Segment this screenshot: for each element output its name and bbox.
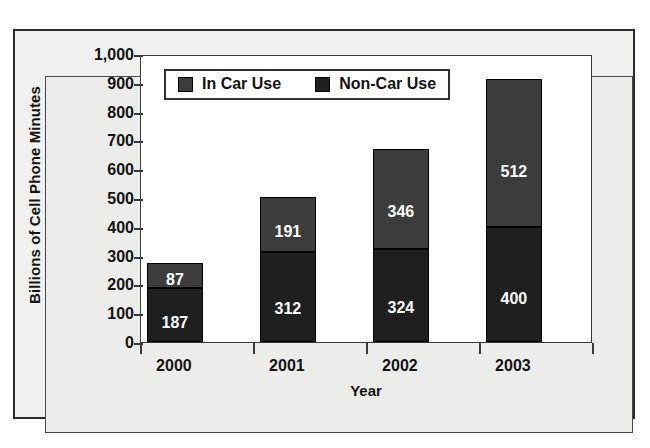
x-axis-category-label: 2001 bbox=[232, 357, 342, 375]
x-axis-tick-mark bbox=[140, 343, 142, 354]
bar-group[interactable]: 312191 bbox=[260, 197, 316, 342]
y-axis-tick-labels: 1,0009008007006005004003002001000 bbox=[70, 45, 134, 345]
bar-group[interactable]: 324346 bbox=[373, 149, 429, 342]
legend-item-non-car-use: Non-Car Use bbox=[315, 76, 436, 92]
y-axis-tick-label: 1,000 bbox=[70, 47, 134, 63]
bar-value-label: 187 bbox=[148, 315, 202, 331]
bar-segment[interactable]: 400 bbox=[486, 227, 542, 342]
bar-segment[interactable]: 87 bbox=[147, 263, 203, 288]
legend-item-in-car-use: In Car Use bbox=[178, 76, 281, 92]
x-axis-tick-mark bbox=[253, 343, 255, 354]
bar-group[interactable]: 400512 bbox=[486, 79, 542, 342]
y-axis-tick-mark bbox=[134, 257, 143, 259]
y-axis-tick-label: 300 bbox=[70, 249, 134, 265]
bar-value-label: 400 bbox=[487, 291, 541, 307]
y-axis-tick-label: 900 bbox=[70, 76, 134, 92]
y-axis-tick-label: 600 bbox=[70, 162, 134, 178]
y-axis-tick-mark bbox=[134, 285, 143, 287]
y-axis-tick-mark bbox=[134, 84, 143, 86]
bar-segment[interactable]: 346 bbox=[373, 149, 429, 249]
bar-segment[interactable]: 312 bbox=[260, 252, 316, 342]
bar-value-label: 324 bbox=[374, 300, 428, 316]
bar-segment[interactable]: 512 bbox=[486, 79, 542, 226]
y-axis-tick-label: 500 bbox=[70, 191, 134, 207]
y-axis-title: Billions of Cell Phone Minutes bbox=[24, 45, 46, 345]
x-axis-tick-mark bbox=[366, 343, 368, 354]
y-axis-tick-label: 100 bbox=[70, 306, 134, 322]
y-axis-tick-label: 0 bbox=[70, 335, 134, 351]
y-axis-tick-label: 800 bbox=[70, 105, 134, 121]
x-axis-category-label: 2000 bbox=[119, 357, 229, 375]
bar-group[interactable]: 18787 bbox=[147, 263, 203, 342]
stacked-bar-chart: Billions of Cell Phone Minutes 1,0009008… bbox=[30, 45, 618, 402]
legend-label-non-car-use: Non-Car Use bbox=[339, 76, 436, 92]
legend-label-in-car-use: In Car Use bbox=[202, 76, 281, 92]
legend-swatch-non-car-use bbox=[315, 77, 330, 92]
y-axis-tick-mark bbox=[134, 199, 143, 201]
y-axis-tick-mark bbox=[134, 55, 143, 57]
bar-segment[interactable]: 187 bbox=[147, 288, 203, 342]
bar-segment[interactable]: 191 bbox=[260, 197, 316, 252]
bar-value-label: 512 bbox=[487, 164, 541, 180]
y-axis-tick-mark bbox=[134, 113, 143, 115]
y-axis-tick-label: 200 bbox=[70, 277, 134, 293]
x-axis-category-label: 2003 bbox=[458, 357, 568, 375]
x-axis-tick-mark bbox=[592, 343, 594, 354]
bar-value-label: 191 bbox=[261, 224, 315, 240]
y-axis-tick-mark bbox=[134, 228, 143, 230]
x-axis-tick-mark bbox=[479, 343, 481, 354]
plot-area: In Car Use Non-Car Use 18787312191324346… bbox=[140, 55, 592, 343]
bar-segment[interactable]: 324 bbox=[373, 249, 429, 342]
y-axis-tick-mark bbox=[134, 170, 143, 172]
y-axis-tick-label: 700 bbox=[70, 133, 134, 149]
bar-value-label: 346 bbox=[374, 204, 428, 220]
y-axis-tick-mark bbox=[134, 314, 143, 316]
y-axis-tick-label: 400 bbox=[70, 220, 134, 236]
x-axis-title: Year bbox=[140, 382, 592, 399]
x-axis-category-label: 2002 bbox=[345, 357, 455, 375]
bar-value-label: 87 bbox=[148, 272, 202, 288]
bar-value-label: 312 bbox=[261, 301, 315, 317]
legend-swatch-in-car-use bbox=[178, 77, 193, 92]
y-axis-tick-mark bbox=[134, 141, 143, 143]
figure-page: Billions of Cell Phone Minutes 1,0009008… bbox=[0, 0, 650, 448]
chart-legend: In Car Use Non-Car Use bbox=[164, 69, 450, 100]
